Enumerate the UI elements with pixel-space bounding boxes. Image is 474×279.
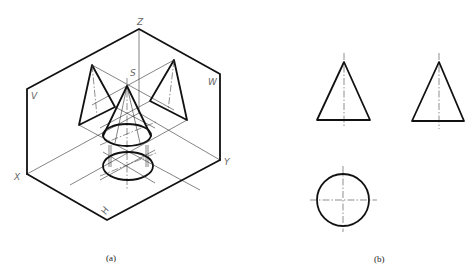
horizontal-plane-outline (27, 160, 220, 220)
side-view-triangle (412, 62, 464, 121)
caption-a: (a) (106, 253, 116, 263)
isometric-view: Z V W S X Y H (a) (13, 17, 231, 263)
label-h: H (99, 205, 111, 216)
orthographic-views: (b) (310, 53, 464, 264)
projection-diagram: Z V W S X Y H (a) (b) (0, 0, 474, 279)
label-z: Z (136, 17, 144, 27)
label-w: W (208, 77, 218, 87)
front-view-triangle (317, 62, 370, 120)
label-s: S (130, 68, 136, 78)
label-y: Y (224, 157, 231, 167)
label-x: X (13, 172, 21, 182)
caption-b: (b) (374, 254, 385, 264)
w-projection-triangle (150, 60, 187, 120)
label-v: V (31, 91, 38, 101)
